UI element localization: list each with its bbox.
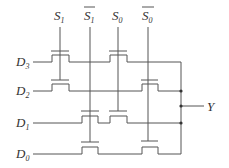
row-d1 — [33, 111, 181, 123]
label-s1: S1 — [54, 8, 65, 25]
label-d2: D2 — [15, 83, 29, 100]
label-s0: S0 — [112, 8, 123, 25]
svg-text:S0: S0 — [142, 8, 153, 25]
junction-dot — [179, 89, 182, 92]
label-s0-bar: S0 — [142, 7, 154, 25]
label-d3: D3 — [15, 54, 29, 71]
svg-text:S1: S1 — [84, 8, 95, 25]
row-d3 — [33, 51, 181, 62]
label-d1: D1 — [15, 115, 29, 132]
row-d0 — [33, 141, 181, 154]
junction-dot — [179, 121, 182, 124]
junction-dot — [179, 104, 182, 107]
mux-circuit-diagram: S1 S1 S0 S0 D3 D2 D1 D0 Y — [0, 0, 229, 168]
row-d2 — [33, 80, 181, 91]
label-y: Y — [207, 99, 216, 114]
label-d0: D0 — [15, 146, 29, 163]
label-s1-bar: S1 — [84, 7, 95, 25]
